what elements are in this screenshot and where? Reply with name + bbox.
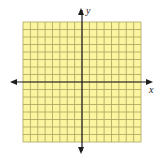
y-axis-label: y [85,5,91,16]
y-axis-up-arrow-icon [78,8,84,15]
x-axis-left-arrow-icon [10,79,17,85]
x-axis-label: x [148,84,154,95]
coordinate-plane: y x [0,0,161,162]
y-axis-down-arrow-icon [78,147,84,154]
